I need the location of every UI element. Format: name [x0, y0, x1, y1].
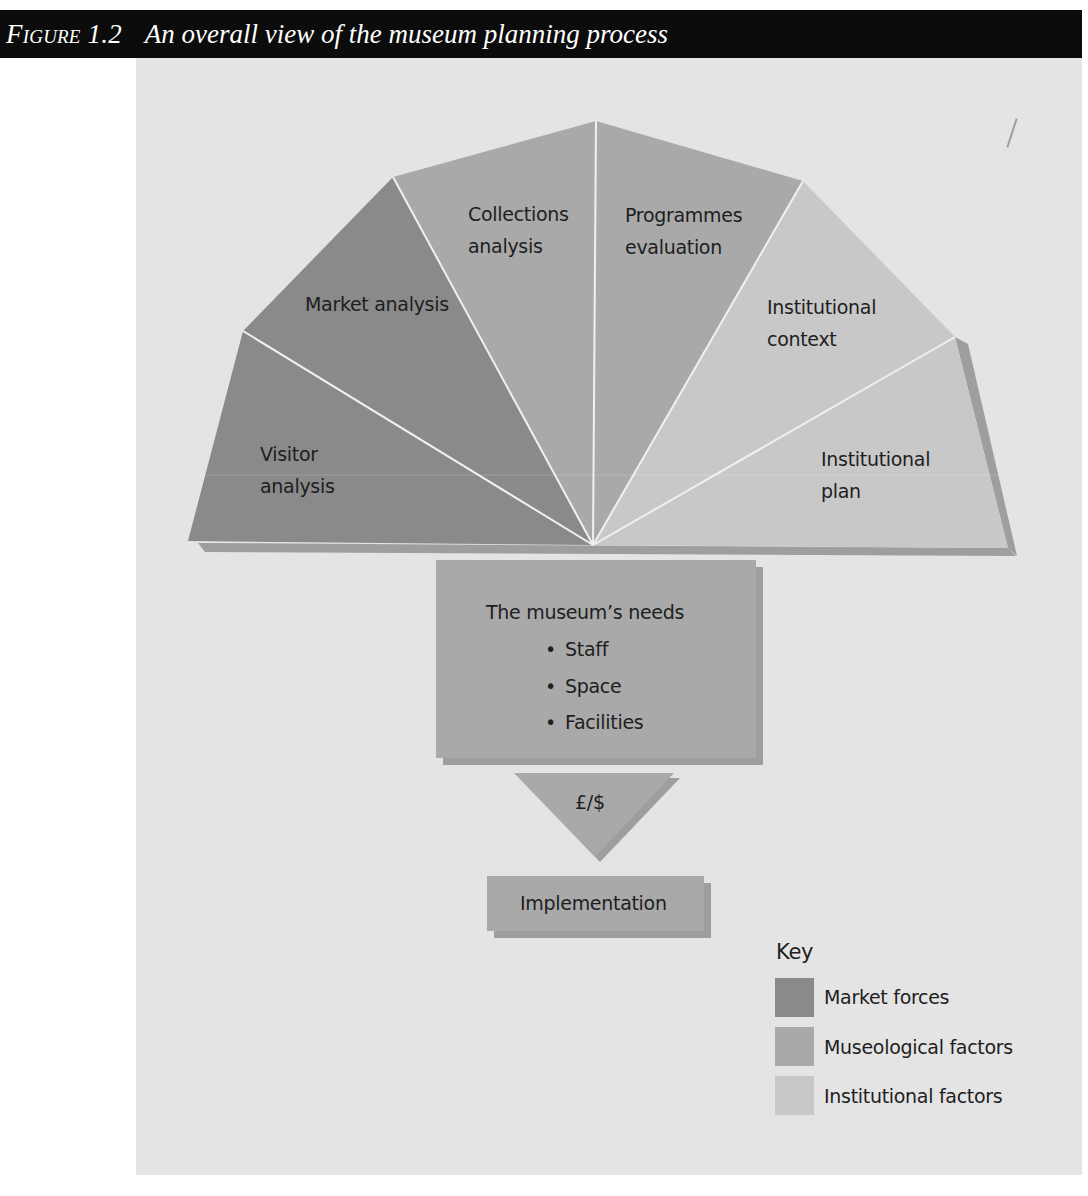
legend-title: Key: [776, 936, 813, 968]
needs-item-facilities: •Facilities: [545, 706, 643, 738]
needs-item-label: Staff: [565, 638, 608, 660]
label-institutional-plan: Institutional plan: [821, 443, 930, 507]
legend-swatch-museological-factors: [775, 1027, 814, 1066]
needs-item-label: Space: [565, 675, 621, 697]
needs-title: The museum’s needs: [486, 596, 684, 628]
legend-swatch-market-forces: [775, 978, 814, 1017]
label-line: Collections: [468, 198, 569, 230]
label-line: context: [767, 323, 876, 355]
label-line: Market analysis: [305, 288, 449, 320]
label-line: Institutional: [767, 291, 876, 323]
label-line: Institutional: [821, 443, 930, 475]
implementation-label: Implementation: [520, 887, 667, 919]
label-line: plan: [821, 475, 930, 507]
label-line: Visitor: [260, 438, 335, 470]
funding-label: £/$: [575, 786, 605, 818]
needs-item-label: Facilities: [565, 711, 643, 733]
label-line: analysis: [260, 470, 335, 502]
label-visitor-analysis: Visitor analysis: [260, 438, 335, 502]
legend-label-museological-factors: Museological factors: [824, 1031, 1013, 1063]
label-collections-analysis: Collections analysis: [468, 198, 569, 262]
legend-label-institutional-factors: Institutional factors: [824, 1080, 1002, 1112]
label-programmes-evaluation: Programmes evaluation: [625, 199, 742, 263]
label-line: evaluation: [625, 231, 742, 263]
needs-item-staff: •Staff: [545, 633, 608, 665]
label-line: Programmes: [625, 199, 742, 231]
legend-swatch-institutional-factors: [775, 1076, 814, 1115]
bullet-icon: •: [545, 670, 565, 702]
needs-item-space: •Space: [545, 670, 621, 702]
label-line: analysis: [468, 230, 569, 262]
bullet-icon: •: [545, 633, 565, 665]
label-market-analysis: Market analysis: [305, 288, 449, 320]
legend-label-market-forces: Market forces: [824, 981, 949, 1013]
bullet-icon: •: [545, 706, 565, 738]
label-institutional-context: Institutional context: [767, 291, 876, 355]
